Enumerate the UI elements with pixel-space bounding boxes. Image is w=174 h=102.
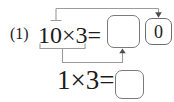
main-answer-box [107, 15, 140, 48]
helper-to-answer-path [63, 49, 123, 63]
answer-arrow-up-icon [119, 48, 125, 53]
main-expression: 10×3= [38, 23, 101, 47]
worksheet-exercise: (1) 10×3= 0 1×3= [0, 0, 174, 102]
helper-answer-box [115, 70, 144, 99]
problem-number: (1) [10, 26, 29, 42]
carry-box-value: 0 [154, 23, 163, 41]
helper-expression: 1×3= [57, 67, 114, 94]
carry-box: 0 [145, 18, 172, 45]
carry-zero-path [51, 9, 159, 21]
carry-arrow-down-icon [155, 12, 162, 18]
